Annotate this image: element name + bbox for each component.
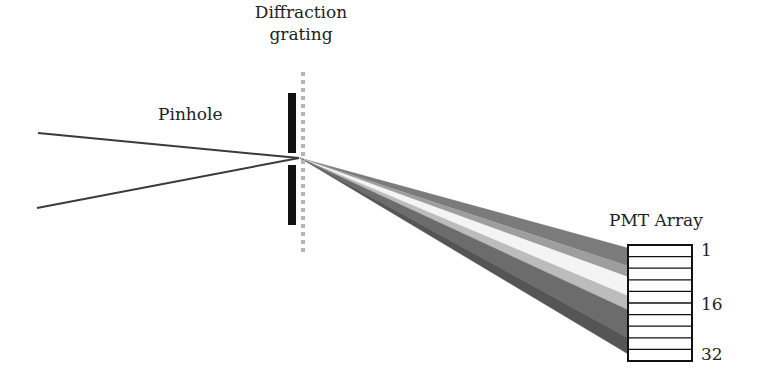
pinhole-label: Pinhole: [158, 104, 223, 124]
pmt-channel-label-16: 16: [701, 294, 723, 314]
grating-line: [301, 216, 305, 220]
grating-line: [301, 176, 305, 180]
grating-line: [301, 192, 305, 196]
diffraction-spectrometer-diagram: Diffraction grating Pinhole PMT Array 1 …: [0, 0, 758, 387]
grating-line: [301, 248, 305, 252]
dispersed-spectrum-beam: [300, 158, 628, 354]
pmt-array-label: PMT Array: [609, 210, 703, 230]
grating-line: [301, 136, 305, 140]
grating-line: [301, 80, 305, 84]
grating-label-line2: grating: [246, 24, 356, 44]
grating-line: [301, 144, 305, 148]
grating-line: [301, 208, 305, 212]
grating-line: [301, 120, 305, 124]
pinhole-blade: [288, 165, 296, 225]
grating-line: [301, 112, 305, 116]
grating-line: [301, 168, 305, 172]
incoming-light-rays: [37, 133, 299, 208]
grating-line: [301, 72, 305, 76]
grating-line: [301, 200, 305, 204]
grating-line: [301, 160, 305, 164]
grating-line: [301, 152, 305, 156]
grating-line: [301, 104, 305, 108]
grating-line: [301, 96, 305, 100]
pmt-channel-label-1: 1: [701, 240, 712, 260]
grating-line: [301, 232, 305, 236]
grating-line: [301, 224, 305, 228]
diagram-canvas: [0, 0, 758, 387]
grating-line: [301, 184, 305, 188]
incoming-ray: [38, 133, 299, 158]
grating-label-line1: Diffraction: [246, 2, 356, 22]
diffraction-grating: [301, 72, 305, 252]
grating-line: [301, 240, 305, 244]
pmt-array-detector: [628, 245, 692, 361]
grating-line: [301, 88, 305, 92]
pmt-channel-label-32: 32: [701, 344, 723, 364]
incoming-ray: [37, 158, 299, 208]
pinhole-blade: [288, 93, 296, 153]
grating-line: [301, 128, 305, 132]
